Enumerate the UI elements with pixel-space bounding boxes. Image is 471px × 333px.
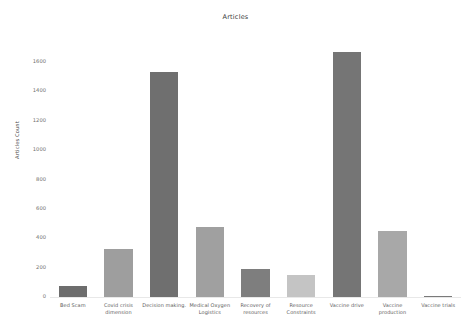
x-tick-label: Resource Constraints [278,302,324,316]
y-tick-label: 600 [36,206,46,211]
x-tick-label: Recovery of resources [233,302,279,316]
y-tick-label: 0 [43,294,46,299]
bar[interactable] [104,249,132,297]
bar[interactable] [59,286,87,297]
x-tick-label: Medical Oxygen Logistics [187,302,233,316]
plot-area: 02004006008001000120014001600 [50,40,461,297]
bar[interactable] [150,72,178,297]
x-tick-label: Decision making. [141,302,187,309]
x-tick-label: Bed Scam [50,302,96,309]
y-tick-label: 800 [36,177,46,182]
bar[interactable] [378,231,406,297]
y-tick-label: 1000 [33,148,46,153]
y-axis-label: Articles Count [14,105,20,175]
x-tick-label: Covid crisis dimension [96,302,142,316]
x-axis-line [50,297,461,298]
x-tick-label: Vaccine trials [415,302,461,309]
y-tick-label: 1400 [33,89,46,94]
bar[interactable] [333,52,361,297]
y-tick-label: 1600 [33,59,46,64]
y-tick-label: 200 [36,265,46,270]
chart-figure: Articles Articles Count 0200400600800100… [0,0,471,333]
x-tick-label: Vaccine drive [324,302,370,309]
bar[interactable] [287,275,315,297]
bar[interactable] [241,269,269,297]
bar[interactable] [424,296,452,297]
y-tick-label: 1200 [33,118,46,123]
x-tick-label: Vaccine production [370,302,416,316]
bar[interactable] [196,227,224,297]
y-tick-label: 400 [36,236,46,241]
chart-title: Articles [0,13,471,21]
